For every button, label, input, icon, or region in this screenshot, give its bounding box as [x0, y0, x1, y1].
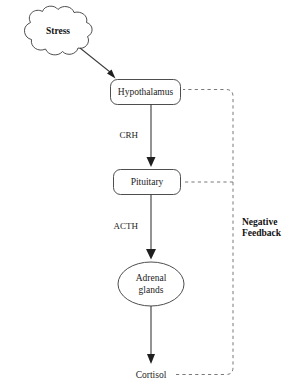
edge-hypothalamus-to-pituitary: CRH — [119, 105, 155, 168]
node-adrenal-glands-label: Adrenal — [136, 273, 167, 283]
edge-stress-to-hypothalamus — [80, 48, 116, 79]
feedback-line-cortisol — [176, 90, 233, 375]
feedback-label-line-2: Feedback — [242, 228, 282, 238]
node-stress-label: Stress — [46, 26, 70, 36]
node-hypothalamus: Hypothalamus — [111, 80, 181, 105]
negative-feedback-path — [176, 90, 233, 375]
edge-pituitary-to-adrenal: ACTH — [114, 195, 157, 260]
arrow-head-icon — [146, 249, 156, 260]
node-hypothalamus-label: Hypothalamus — [118, 87, 174, 97]
negative-feedback-label: Negative Feedback — [242, 217, 282, 238]
node-cortisol: Cortisol — [136, 370, 167, 380]
node-pituitary-label: Pituitary — [131, 177, 164, 187]
edge-label-acth: ACTH — [114, 221, 139, 231]
node-cortisol-label: Cortisol — [136, 370, 167, 380]
node-stress: Stress — [24, 6, 92, 55]
node-adrenal-glands: Adrenal glands — [118, 262, 184, 306]
node-pituitary: Pituitary — [114, 170, 181, 195]
arrow-head-icon — [147, 354, 155, 364]
arrow-head-icon — [147, 157, 156, 167]
node-adrenal-glands-label-2: glands — [139, 285, 164, 295]
edge-line — [80, 48, 113, 74]
hpa-axis-diagram: Stress Hypothalamus CRH Pitu — [0, 0, 291, 387]
edge-label-crh: CRH — [119, 130, 138, 140]
diagram-canvas: Stress Hypothalamus CRH Pitu — [0, 0, 291, 387]
feedback-label-line-1: Negative — [242, 217, 277, 227]
edge-adrenal-to-cortisol — [147, 306, 155, 364]
